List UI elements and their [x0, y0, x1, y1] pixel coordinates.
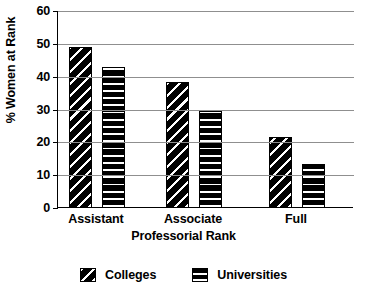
legend-item-universities: Universities [192, 268, 287, 282]
gridline-y-20 [58, 142, 354, 143]
bar-associate-universities [199, 111, 222, 208]
y-tick-label-30: 30 [36, 103, 50, 117]
y-tick-mark-50 [53, 44, 58, 45]
y-tick-mark-40 [53, 77, 58, 78]
plot-area: 6050403020100 [57, 11, 353, 208]
x-axis-title: Professorial Rank [0, 229, 367, 243]
y-tick-mark-10 [53, 175, 58, 176]
y-tick-mark-20 [53, 142, 58, 143]
y-tick-label-40: 40 [36, 70, 50, 84]
gridline-y-40 [58, 77, 354, 78]
legend-label-universities: Universities [217, 268, 287, 282]
gridline-y-50 [58, 44, 354, 45]
y-tick-mark-60 [53, 11, 58, 12]
gridline-y-60 [58, 11, 354, 12]
chart-legend: Colleges Universities [0, 268, 367, 282]
legend-label-colleges: Colleges [105, 268, 156, 282]
bar-assistant-colleges [69, 47, 92, 208]
legend-item-colleges: Colleges [80, 268, 156, 282]
legend-swatch-colleges [80, 268, 96, 282]
legend-swatch-universities [192, 268, 208, 282]
y-tick-label-50: 50 [36, 37, 50, 51]
gridline-y-30 [58, 110, 354, 111]
y-tick-label-10: 10 [36, 168, 50, 182]
x-category-label-full: Full [236, 212, 356, 226]
y-tick-label-20: 20 [36, 135, 50, 149]
bar-full-colleges [269, 137, 292, 208]
gridline-y-10 [58, 175, 354, 176]
bar-full-universities [302, 164, 325, 208]
x-category-label-associate: Associate [133, 212, 253, 226]
y-tick-mark-30 [53, 110, 58, 111]
y-tick-label-60: 60 [36, 4, 50, 18]
bar-associate-colleges [166, 82, 189, 208]
y-tick-mark-0 [53, 208, 58, 209]
y-axis-title: % Women at Rank [4, 0, 18, 145]
bar-assistant-universities [102, 67, 125, 208]
bar-chart: 6050403020100 % Women at Rank Professori… [0, 0, 367, 303]
